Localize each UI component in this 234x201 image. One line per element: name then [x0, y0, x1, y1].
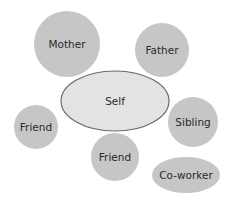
- node-co-worker: Co-worker: [152, 157, 220, 193]
- node-father: Father: [135, 23, 189, 77]
- node-self: Self: [61, 71, 169, 131]
- diagram-canvas: Mother Father Friend Sibling Friend Co-w…: [0, 0, 234, 201]
- node-friend-left: Friend: [14, 105, 58, 149]
- node-sibling-label: Sibling: [175, 116, 210, 128]
- node-friend-bottom: Friend: [91, 133, 139, 181]
- node-mother: Mother: [34, 11, 100, 77]
- node-friend-bottom-label: Friend: [99, 151, 131, 163]
- node-self-label: Self: [105, 95, 125, 107]
- node-friend-left-label: Friend: [20, 121, 52, 133]
- node-sibling: Sibling: [168, 97, 218, 147]
- relationship-diagram: Mother Father Friend Sibling Friend Co-w…: [0, 0, 234, 201]
- node-father-label: Father: [145, 44, 179, 56]
- node-co-worker-label: Co-worker: [159, 169, 213, 181]
- node-mother-label: Mother: [48, 38, 86, 50]
